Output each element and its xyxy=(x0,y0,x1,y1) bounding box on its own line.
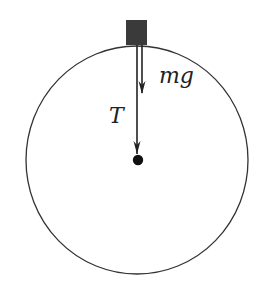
tension-arrow xyxy=(134,45,141,154)
weight-arrow xyxy=(139,45,146,94)
weight-label: mg xyxy=(159,63,194,88)
mass-block xyxy=(126,20,147,45)
tension-label: T xyxy=(109,103,126,128)
diagram-canvas: mg T xyxy=(0,0,262,293)
center-pivot xyxy=(133,155,143,165)
